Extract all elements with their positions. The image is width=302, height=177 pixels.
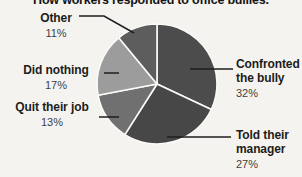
label-confronted: Confronted the bully 32% — [236, 57, 298, 99]
label-quit-job-text: Quit their job — [2, 100, 102, 114]
pie-slices — [97, 24, 217, 144]
label-quit-job-pct: 13% — [2, 116, 102, 128]
label-quit-job: Quit their job 13% — [2, 100, 102, 128]
label-told-manager: Told their manager 27% — [236, 128, 298, 170]
label-confronted-pct: 32% — [236, 87, 298, 99]
label-told-manager-pct: 27% — [236, 158, 298, 170]
label-other: Other 11% — [24, 11, 88, 39]
pie-chart-figure: How workers responded to office bullies.… — [0, 0, 302, 177]
label-did-nothing: Did nothing 17% — [8, 63, 104, 91]
label-did-nothing-pct: 17% — [8, 79, 104, 91]
label-other-pct: 11% — [24, 27, 88, 39]
label-told-manager-text: Told their manager — [236, 128, 298, 156]
label-confronted-text: Confronted the bully — [236, 57, 298, 85]
label-did-nothing-text: Did nothing — [8, 63, 104, 77]
label-other-text: Other — [24, 11, 88, 25]
